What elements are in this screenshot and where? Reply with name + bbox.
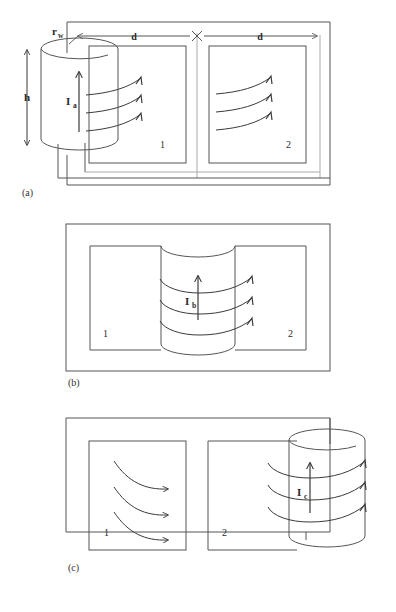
dimension-d-left-label: d [131,31,137,42]
panel-a-radius-subscript: w [58,31,64,40]
panel-a-dimension-left: d [78,31,190,42]
panel-c-field-lines-left [114,461,168,540]
panel-a-dimension-right: d [204,31,317,42]
panel-a-height-label: h [24,91,30,103]
panel-a-current-subscript: a [73,101,77,110]
panel-c: 1 2 I [66,418,366,574]
panel-c-caption: (c) [68,562,79,574]
panel-a-field-lines [86,77,142,131]
panel-b-loop-1-label: 1 [103,328,108,339]
panel-a-loop-1-label: 1 [160,139,165,150]
panel-b-current-subscript: b [192,301,196,310]
panel-b: 1 2 I b (b) [66,224,330,389]
panel-a-radius-label: r [52,25,57,37]
panel-a-current-label: I [66,95,70,107]
panel-c-loop-2-label: 2 [222,527,227,538]
dimension-d-right-label: d [257,31,263,42]
panel-c-current-label: I [297,486,301,498]
panel-b-field-lines [160,276,253,335]
panel-a-radius-dimension: r w [52,25,78,44]
panel-c-current-arrow: I c [297,463,310,513]
panel-a-current-arrow: I a [66,72,79,132]
panel-a-loop-1 [89,46,186,163]
panel-c-outer-frame [66,418,330,532]
panel-a-loop-2-label: 2 [286,139,291,150]
panel-a-height-dimension: h [24,50,30,145]
panel-a-field-lines-right [216,76,272,130]
panel-b-loop-2-label: 2 [288,328,293,339]
panel-c-cylinder [289,418,365,547]
panel-c-field-lines [268,460,366,522]
panel-a-caption: (a) [22,187,33,199]
panel-b-current-label: I [185,295,189,307]
figure-container: d d 1 2 [0,0,396,612]
panel-a-loop-2 [209,46,306,163]
panel-b-caption: (b) [68,377,80,389]
panel-a: d d 1 2 [22,22,330,199]
panel-c-loop-1-label: 1 [104,527,109,538]
physics-diagram-svg: d d 1 2 [0,0,396,612]
